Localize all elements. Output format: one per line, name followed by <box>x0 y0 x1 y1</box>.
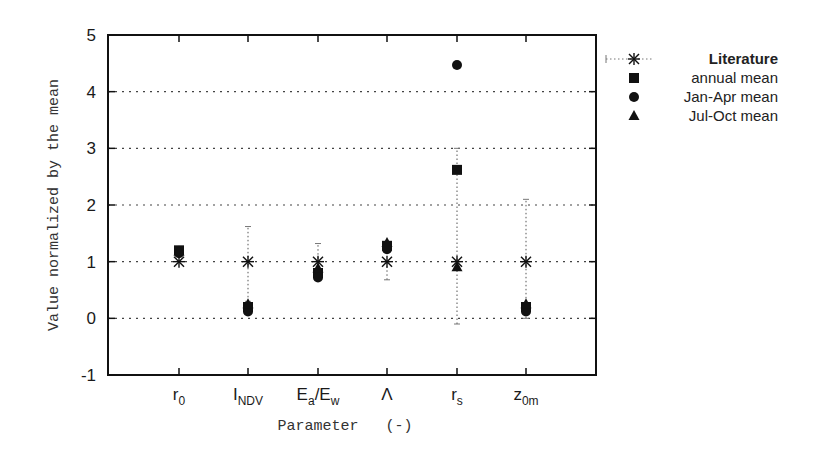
x-axis-category-labels: r0INDVEa/EwΛrsz0m <box>173 385 539 408</box>
x-category-label: rs <box>451 385 463 408</box>
error-bars <box>245 148 529 324</box>
y-tick-label: 2 <box>87 196 96 215</box>
legend-asterisk-icon <box>628 53 640 65</box>
point-literature <box>520 256 532 268</box>
legend-label: Literature <box>709 50 778 67</box>
x-category-label: INDV <box>233 385 263 408</box>
legend-item: Literature <box>606 50 778 67</box>
point-literature <box>312 256 324 268</box>
y-tick-label: -1 <box>81 366 96 385</box>
point-literature <box>173 256 185 268</box>
legend: Literatureannual meanJan-Apr meanJul-Oct… <box>606 50 778 124</box>
legend-triangle-icon <box>629 110 640 120</box>
y-tick-label: 1 <box>87 253 96 272</box>
x-category-label: Λ <box>381 385 393 404</box>
legend-label: Jan-Apr mean <box>684 88 778 105</box>
point-literature <box>381 256 393 268</box>
y-axis-title: Value normalized by the mean <box>46 79 63 331</box>
legend-square-icon <box>629 73 639 83</box>
point-literature <box>451 256 463 268</box>
y-tick-label: 5 <box>87 26 96 45</box>
y-tick-label: 3 <box>87 139 96 158</box>
legend-label: Jul-Oct mean <box>689 107 778 124</box>
x-axis-title: Parameter (-) <box>277 418 412 435</box>
x-category-label: Ea/Ew <box>297 385 340 408</box>
chart-canvas: -1012345 r0INDVEa/EwΛrsz0m Value normali… <box>0 0 829 458</box>
legend-item: annual mean <box>629 69 778 86</box>
data-points <box>173 60 532 317</box>
legend-circle-icon <box>629 92 639 102</box>
point-literature <box>242 256 254 268</box>
legend-label: annual mean <box>691 69 778 86</box>
x-category-label: z0m <box>513 385 538 408</box>
point-circle <box>313 273 323 283</box>
legend-item: Jan-Apr mean <box>629 88 778 105</box>
point-circle <box>452 60 462 70</box>
gridlines <box>108 92 596 319</box>
point-square <box>452 165 462 175</box>
y-tick-label: 0 <box>87 309 96 328</box>
legend-item: Jul-Oct mean <box>629 107 779 124</box>
x-category-label: r0 <box>173 385 186 408</box>
y-tick-label: 4 <box>87 83 96 102</box>
